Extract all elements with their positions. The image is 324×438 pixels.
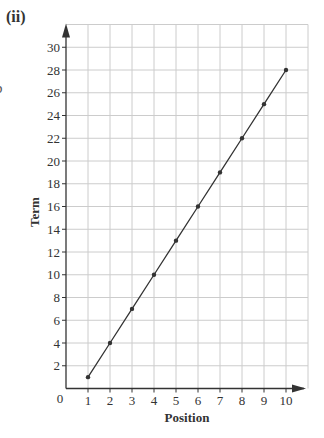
data-point bbox=[174, 238, 178, 242]
data-point bbox=[240, 136, 244, 140]
y-tick-label: 2 bbox=[54, 358, 61, 373]
y-tick-label: 26 bbox=[47, 85, 61, 100]
data-point bbox=[86, 375, 90, 379]
y-tick-label: 12 bbox=[47, 245, 60, 260]
y-tick-label: 18 bbox=[47, 176, 60, 191]
data-point bbox=[284, 68, 288, 72]
chart-grid bbox=[66, 25, 308, 389]
x-tick-label: 1 bbox=[85, 393, 92, 408]
y-tick-label: 8 bbox=[54, 290, 61, 305]
x-tick-label: 4 bbox=[151, 393, 158, 408]
chart-ticks: 1234567891024681012141618202224262830 bbox=[47, 40, 293, 408]
x-tick-label: 3 bbox=[129, 393, 136, 408]
origin-label: 0 bbox=[57, 391, 64, 406]
data-point bbox=[130, 307, 134, 311]
data-point bbox=[196, 204, 200, 208]
x-tick-label: 6 bbox=[195, 393, 202, 408]
data-point bbox=[218, 170, 222, 174]
line-chart: 1234567891024681012141618202224262830 Po… bbox=[0, 0, 324, 438]
x-tick-label: 2 bbox=[107, 393, 114, 408]
y-tick-label: 30 bbox=[47, 40, 60, 55]
data-point bbox=[152, 273, 156, 277]
chart-series bbox=[86, 68, 288, 380]
y-axis-arrow-icon bbox=[62, 24, 70, 38]
x-axis-label: Position bbox=[165, 410, 211, 425]
y-tick-label: 28 bbox=[47, 63, 60, 78]
data-point bbox=[262, 102, 266, 106]
x-tick-label: 5 bbox=[173, 393, 180, 408]
y-tick-label: 6 bbox=[54, 313, 61, 328]
y-tick-label: 24 bbox=[47, 108, 61, 123]
x-tick-label: 7 bbox=[217, 393, 224, 408]
y-tick-label: 16 bbox=[47, 199, 61, 214]
chart-axes bbox=[62, 24, 306, 393]
x-tick-label: 10 bbox=[280, 393, 293, 408]
y-tick-label: 22 bbox=[47, 131, 60, 146]
y-tick-label: 20 bbox=[47, 154, 60, 169]
y-tick-label: 10 bbox=[47, 267, 60, 282]
data-point bbox=[108, 341, 112, 345]
y-tick-label: 14 bbox=[47, 222, 61, 237]
x-axis-arrow-icon bbox=[292, 385, 306, 393]
y-axis-label: Term bbox=[27, 197, 42, 227]
x-tick-label: 9 bbox=[261, 393, 268, 408]
x-tick-label: 8 bbox=[239, 393, 246, 408]
y-tick-label: 4 bbox=[54, 336, 61, 351]
series-line bbox=[88, 70, 286, 377]
